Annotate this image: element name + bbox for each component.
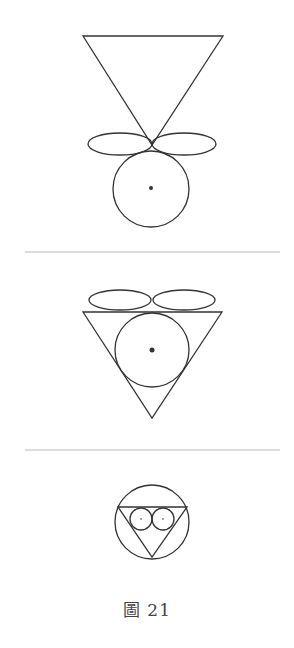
small-center-dot [162,518,164,520]
ellipse-shape [153,290,215,310]
center-dot [149,186,153,190]
figure-1 [83,36,223,227]
ellipse-shape [152,133,216,155]
figure-2 [83,290,222,418]
small-center-dot [140,518,142,520]
diagram-canvas [0,0,294,648]
ellipse-shape [89,290,151,310]
figure-caption: 圖 21 [0,596,294,621]
figure-3 [115,485,189,559]
triangle-shape [83,36,223,145]
center-dot [150,348,155,353]
triangle-shape [83,312,222,418]
